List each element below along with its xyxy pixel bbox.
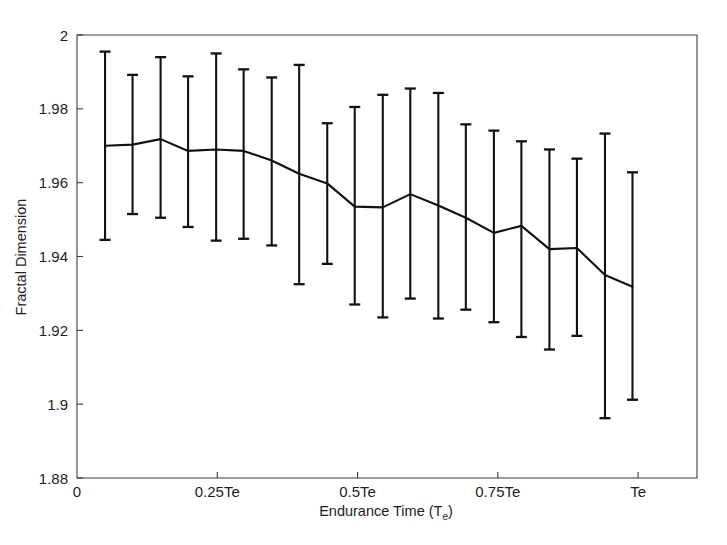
x-tick-label: 0.75Te (475, 483, 520, 500)
y-axis-ticks: 1.881.91.921.941.961.982 (39, 27, 83, 487)
y-tick-label: 1.9 (47, 396, 68, 413)
series-line-group (105, 139, 632, 287)
y-tick-label: 1.98 (39, 100, 68, 117)
x-tick-label: Te (630, 483, 646, 500)
x-tick-label: 0 (73, 483, 81, 500)
x-axis-title-label: Endurance Time (Te) (319, 503, 453, 522)
fractal-dimension-chart: 1.881.91.921.941.961.982 00.25Te0.5Te0.7… (0, 0, 727, 545)
y-axis-title-label: Fractal Dimension (13, 199, 29, 316)
y-tick-label: 1.96 (39, 174, 68, 191)
x-tick-label: 0.25Te (195, 483, 240, 500)
x-axis-ticks: 00.25Te0.5Te0.75TeTe (73, 472, 646, 500)
x-axis-title: Endurance Time (Te) (319, 503, 453, 522)
error-bars (100, 52, 638, 419)
y-tick-label: 2 (60, 27, 68, 44)
figure-root: 1.881.91.921.941.961.982 00.25Te0.5Te0.7… (0, 0, 727, 545)
x-tick-label: 0.5Te (339, 483, 376, 500)
y-tick-label: 1.88 (39, 470, 68, 487)
y-tick-label: 1.94 (39, 248, 68, 265)
y-tick-label: 1.92 (39, 322, 68, 339)
y-axis-title: Fractal Dimension (13, 199, 29, 316)
